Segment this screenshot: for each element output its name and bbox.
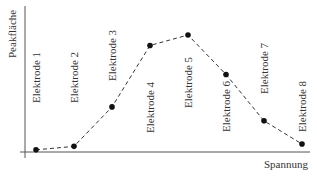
category-label: Elektrode 2 [68, 52, 80, 103]
data-point [147, 43, 153, 49]
data-point [299, 141, 305, 147]
category-label: Elektrode 1 [30, 52, 42, 103]
category-label: Elektrode 8 [296, 80, 308, 132]
data-point [109, 104, 115, 110]
category-labels: Elektrode 1Elektrode 2Elektrode 3Elektro… [30, 29, 308, 133]
x-axis-label: Spannung [264, 158, 309, 170]
category-label: Elektrode 3 [106, 29, 118, 81]
category-label: Elektrode 4 [144, 81, 156, 133]
chart: Peakfläche Spannung Elektrode 1Elektrode… [0, 0, 317, 180]
category-label: Elektrode 6 [220, 80, 232, 132]
data-point [185, 32, 191, 38]
category-label: Elektrode 7 [258, 42, 270, 94]
data-point [71, 144, 77, 150]
y-axis-label: Peakfläche [6, 10, 18, 58]
data-point [33, 147, 39, 153]
data-point [223, 72, 229, 78]
category-label: Elektrode 5 [182, 56, 194, 108]
data-point [261, 118, 267, 124]
